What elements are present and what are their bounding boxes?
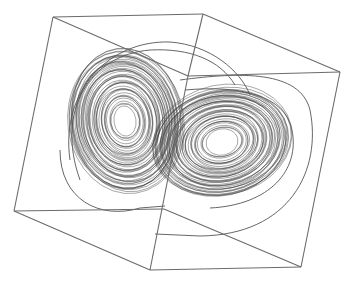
- trajectory-loop: [155, 75, 312, 236]
- lorenz-attractor-figure: [0, 0, 353, 282]
- cube-edge: [53, 17, 188, 76]
- attractor-trajectory: [58, 41, 302, 209]
- cube-edge: [164, 209, 301, 267]
- left-lobe-hole: [113, 107, 136, 136]
- cube-edge: [14, 17, 53, 211]
- cube-edge: [150, 267, 301, 270]
- cube-edge: [188, 72, 340, 76]
- cube-edge: [203, 14, 340, 72]
- cube-edge: [14, 211, 150, 270]
- cube-edge: [14, 209, 164, 211]
- cube-edge: [53, 14, 203, 17]
- cube-edge: [188, 14, 203, 76]
